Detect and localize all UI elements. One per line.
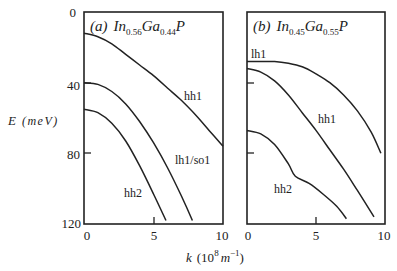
y-axis-label: E(meV) [7, 113, 59, 128]
x-tick-label-b-10: 10 [378, 228, 391, 243]
panel-b-title: (b)In0.45Ga0.55P [253, 18, 348, 37]
band-structure-figure: 0 40 80 120 0 5 10 0 5 10 E(meV) k(108m−… [0, 0, 397, 271]
label-a-hh1: hh1 [184, 89, 202, 103]
x-tick-label-b-0: 0 [245, 228, 252, 243]
curve-a-hh1 [84, 33, 223, 146]
curve-b-hh1 [247, 69, 374, 217]
panel-b-curves [247, 61, 381, 218]
x-tick-label-a-0: 0 [84, 228, 91, 243]
panel-a-curves [84, 33, 223, 220]
y-ticks-a [84, 83, 91, 153]
label-a-lh1-so1: lh1/so1 [175, 153, 210, 167]
y-ticks-b [247, 83, 254, 153]
y-tick-label-120: 120 [62, 216, 82, 231]
y-tick-label-0: 0 [70, 5, 77, 20]
x-axis-label: k(108m−1) [186, 248, 244, 265]
curve-a-hh2 [84, 109, 166, 220]
label-b-lh1: lh1 [251, 47, 266, 61]
label-a-hh2: hh2 [124, 186, 142, 200]
x-tick-label-b-5: 5 [313, 228, 320, 243]
y-tick-label-80: 80 [67, 147, 80, 162]
y-tick-label-40: 40 [67, 78, 80, 93]
label-b-hh1: hh1 [318, 112, 336, 126]
x-tick-label-a-5: 5 [151, 228, 158, 243]
curve-b-hh2 [247, 130, 346, 218]
label-b-hh2: hh2 [274, 182, 292, 196]
panel-a-title: (a)In0.56Ga0.44P [90, 18, 185, 37]
x-tick-label-a-10: 10 [216, 228, 229, 243]
panel-b-frame [247, 12, 385, 224]
